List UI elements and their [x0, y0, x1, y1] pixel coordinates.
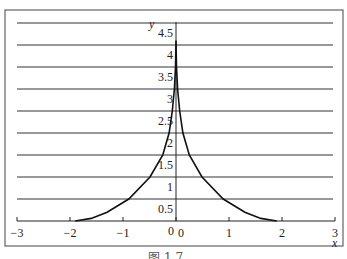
y-tick-label: 4 — [167, 48, 173, 62]
y-tick-label: 0.5 — [158, 202, 173, 216]
x-tick-label: −2 — [64, 226, 77, 240]
y-tick-label: 4.5 — [158, 26, 173, 40]
origin-label-y: 0 — [168, 224, 174, 238]
figure-caption: 图 1.7 … — [0, 248, 347, 259]
x-tick-label: 2 — [279, 226, 285, 240]
chart: 0.511.522.533.544.5−3−2−112300 y x — [0, 0, 347, 259]
y-tick-label: 3.5 — [158, 70, 173, 84]
grid-lines — [17, 23, 333, 199]
x-tick-label: −3 — [11, 226, 24, 240]
x-tick-label: 1 — [226, 226, 232, 240]
y-tick-label: 1 — [167, 180, 173, 194]
y-axis-label: y — [148, 17, 155, 31]
x-tick-label: −1 — [117, 226, 130, 240]
origin-label-x: 0 — [178, 226, 184, 240]
y-tick-label: 3 — [167, 92, 173, 106]
